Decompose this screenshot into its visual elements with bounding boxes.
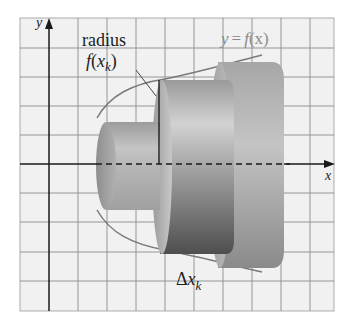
y-axis-label: y: [34, 15, 43, 30]
curve-label: y=f(x): [219, 29, 269, 48]
radius-label: radius: [82, 30, 126, 50]
radius-expression: f(xk): [86, 51, 117, 74]
x-axis-label: x: [324, 168, 332, 183]
middle-disk: [152, 80, 234, 254]
disk-method-figure: y x radius f(xk) y=f(x) Δxk: [0, 0, 354, 325]
small-disk: [96, 122, 160, 210]
